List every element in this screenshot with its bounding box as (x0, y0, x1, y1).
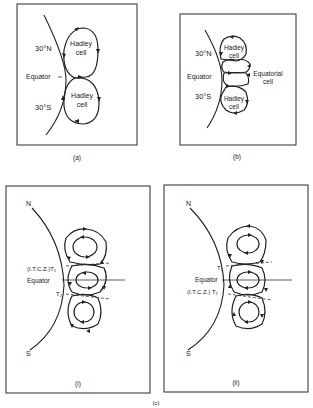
cell-label: Equatorial (253, 70, 283, 78)
cell-inner-south (239, 302, 259, 322)
cell-label: cell (76, 49, 87, 56)
caption-a: (a) (73, 154, 81, 162)
arrow-icon (82, 300, 86, 304)
label-itcz-t1: (I.T.C.Z.)T₁ (27, 266, 56, 272)
label-equator: Equator (187, 73, 212, 81)
panel-b: 30°N Equator 30°S Hadley cell Equatorial… (180, 14, 296, 161)
arrow-icon (83, 227, 87, 231)
arrow-icon (244, 286, 248, 290)
cell-inner-north (73, 237, 97, 257)
panel-c-ii: N S T₁ Equator (I.T.C.Z.) T₂ (ii) (164, 185, 308, 392)
arrow-icon (80, 235, 84, 239)
arrow-icon (246, 224, 250, 228)
label-30s: 30°S (195, 92, 211, 101)
arrow-icon (248, 300, 252, 304)
panel-c-i: N S (I.T.C.Z.)T₁ Equator T₂ (i) (6, 186, 150, 393)
label-30n: 30°N (35, 44, 52, 53)
arrow-icon (86, 255, 90, 259)
arrow-icon (245, 100, 249, 104)
cell-inner-north (237, 235, 259, 253)
caption-c-ii: (ii) (232, 379, 239, 387)
label-s: S (186, 350, 191, 357)
cell-label: Hadley (224, 44, 245, 52)
arrow-icon (248, 270, 252, 274)
t1-dashed-line (66, 263, 110, 266)
cell-label: Hadley (71, 92, 93, 100)
cell-outer-north (227, 226, 266, 264)
label-itcz-t2: (I.T.C.Z.) T₂ (187, 289, 219, 295)
cell-outer-south (68, 294, 101, 328)
panel-c-i-frame (6, 186, 150, 393)
arrow-icon (97, 97, 101, 102)
caption-c-i: (i) (75, 380, 81, 388)
cell-label: cell (77, 101, 88, 108)
label-t2: T₂ (56, 291, 63, 297)
label-30s: 30°S (35, 103, 51, 112)
cell-label: Hadley (70, 40, 92, 48)
label-n: N (186, 200, 191, 207)
cell-label: Hadley (224, 95, 245, 103)
arrow-icon (260, 314, 264, 318)
label-30n: 30°N (195, 49, 212, 58)
label-equator: Equator (26, 73, 51, 81)
label-t1: T₁ (217, 265, 223, 271)
label-equator: Equator (195, 276, 219, 284)
label-s: S (26, 350, 31, 357)
label-equator: Equator (27, 277, 51, 285)
cell-label: cell (263, 78, 273, 85)
arrow-icon (233, 111, 237, 115)
cell-label: cell (229, 52, 239, 59)
atmospheric-circulation-diagram: 30°N Equator 30°S Hadley cell Hadley cel… (0, 0, 313, 408)
arrow-icon (230, 35, 234, 39)
arrow-icon (96, 49, 100, 54)
arrow-icon (62, 53, 66, 58)
caption-b: (b) (233, 153, 241, 161)
arrow-icon (86, 329, 90, 333)
equatorial-cell-south (223, 73, 249, 87)
label-n: N (26, 200, 31, 207)
panel-a: 30°N Equator 30°S Hadley cell Hadley cel… (17, 4, 137, 162)
cell-inner-south (74, 302, 94, 322)
caption-c: (c) (153, 400, 160, 406)
arrow-icon (226, 84, 230, 88)
arrow-icon (248, 233, 252, 237)
arrow-icon (82, 271, 86, 275)
arrow-icon (244, 251, 248, 255)
cell-outer-south (232, 294, 265, 328)
arrow-icon (88, 286, 92, 290)
arrow-icon (228, 71, 232, 75)
arrow-icon (80, 320, 84, 324)
arrow-icon (264, 288, 268, 292)
panel-c-ii-frame (164, 185, 308, 392)
cell-label: cell (229, 103, 239, 110)
cell-outer-north (65, 229, 107, 265)
